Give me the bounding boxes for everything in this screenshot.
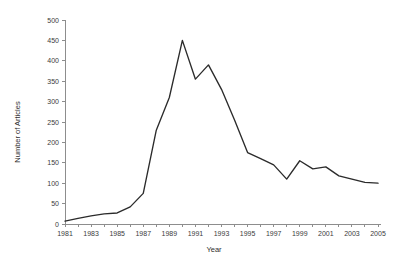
x-tick-label: 1989 — [162, 230, 178, 237]
x-tick-label: 1999 — [292, 230, 308, 237]
x-tick-label: 1983 — [83, 230, 99, 237]
data-series-group — [65, 40, 378, 221]
y-tick-label: 0 — [55, 221, 59, 228]
y-tick-label: 50 — [51, 200, 59, 207]
series-line — [65, 40, 378, 221]
x-tick-label: 2003 — [344, 230, 360, 237]
x-tick-label: 2001 — [318, 230, 334, 237]
x-axis: 1981198319851987198919911993199519971999… — [57, 224, 386, 237]
x-tick-label: 1987 — [135, 230, 151, 237]
y-axis-title: Number of Articles — [13, 101, 22, 163]
line-chart: 050100150200250300350400450500 198119831… — [0, 0, 418, 265]
x-axis-title: Year — [206, 245, 222, 254]
chart-container: 050100150200250300350400450500 198119831… — [0, 0, 418, 265]
x-tick-label: 1981 — [57, 230, 73, 237]
y-tick-label: 350 — [47, 78, 59, 85]
y-tick-label: 500 — [47, 17, 59, 24]
y-tick-label: 100 — [47, 180, 59, 187]
y-tick-label: 250 — [47, 119, 59, 126]
x-tick-label: 1991 — [188, 230, 204, 237]
y-axis: 050100150200250300350400450500 — [47, 17, 65, 228]
x-tick-label: 1997 — [266, 230, 282, 237]
x-tick-label: 1995 — [240, 230, 256, 237]
y-tick-label: 450 — [47, 37, 59, 44]
y-tick-label: 150 — [47, 159, 59, 166]
y-tick-label: 200 — [47, 139, 59, 146]
y-tick-label: 300 — [47, 98, 59, 105]
x-tick-label: 2005 — [370, 230, 386, 237]
x-tick-label: 1993 — [214, 230, 230, 237]
y-tick-label: 400 — [47, 57, 59, 64]
x-tick-label: 1985 — [109, 230, 125, 237]
